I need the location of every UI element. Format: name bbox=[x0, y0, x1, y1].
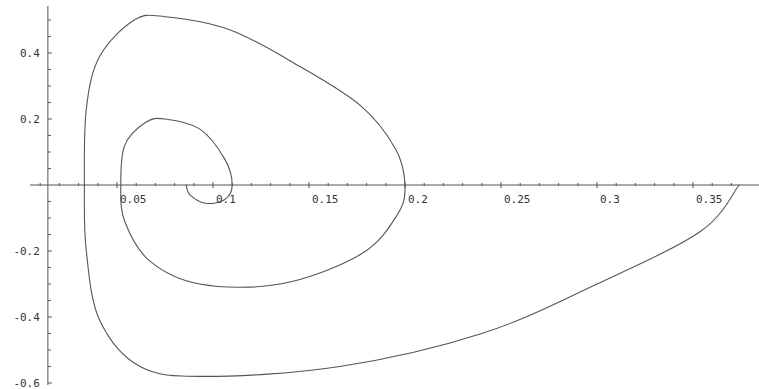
x-tick-label: 0.35 bbox=[696, 193, 723, 206]
y-tick-label: 0.2 bbox=[20, 113, 40, 126]
y-axis-ticks: 0.40.2-0.2-0.4-0.6 bbox=[13, 20, 52, 389]
y-tick-label: -0.4 bbox=[13, 311, 40, 324]
x-tick-label: 0.15 bbox=[312, 193, 339, 206]
y-tick-label: -0.6 bbox=[13, 377, 40, 389]
x-tick-label: 0.25 bbox=[504, 193, 531, 206]
y-tick-label: -0.2 bbox=[13, 245, 40, 258]
y-tick-label: 0.4 bbox=[20, 47, 40, 60]
phase-plot: 0.050.10.150.20.250.30.35 0.40.2-0.2-0.4… bbox=[0, 0, 759, 389]
x-tick-label: 0.3 bbox=[600, 193, 620, 206]
x-tick-label: 0.1 bbox=[216, 193, 236, 206]
x-tick-label: 0.05 bbox=[120, 193, 147, 206]
x-axis-ticks: 0.050.10.150.20.250.30.35 bbox=[40, 182, 731, 206]
x-tick-label: 0.2 bbox=[408, 193, 428, 206]
